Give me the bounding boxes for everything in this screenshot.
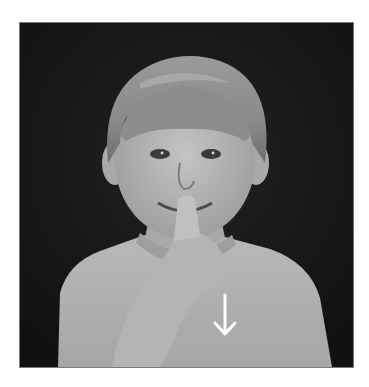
child-photo-illustration [20,23,353,367]
left-eye-glint [161,152,164,155]
right-eye [201,149,221,159]
left-eye [150,149,170,159]
photo [20,23,353,367]
right-eye-glint [212,152,215,155]
